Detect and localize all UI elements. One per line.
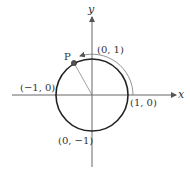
x-axis-label: x <box>178 88 185 101</box>
label-left: (−1, 0) <box>20 82 55 93</box>
unit-circle-diagram: y x P (0, 1) (−1, 0) (1, 0) (0, −1) <box>0 0 190 177</box>
point-p <box>71 60 76 65</box>
label-right: (1, 0) <box>130 97 157 108</box>
label-top: (0, 1) <box>97 44 124 55</box>
label-bottom: (0, −1) <box>58 135 93 146</box>
rotation-arc-arrow <box>80 54 133 95</box>
point-p-label: P <box>64 51 71 62</box>
radius-line <box>74 63 92 95</box>
y-axis-label: y <box>87 3 95 16</box>
